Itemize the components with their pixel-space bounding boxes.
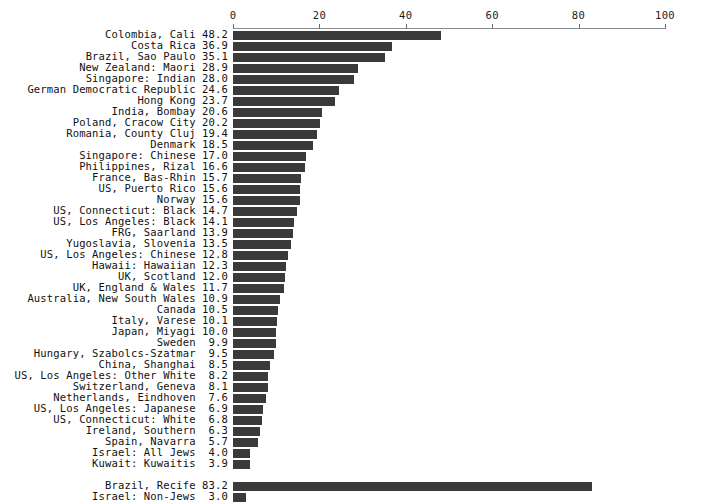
bar <box>233 460 250 469</box>
bar <box>233 284 284 293</box>
chart-row: Israel: Non-Jews 3.0 <box>0 492 712 503</box>
bar <box>233 207 297 216</box>
bar <box>233 306 278 315</box>
x-axis-tick <box>406 24 407 29</box>
bar <box>233 361 270 370</box>
bar <box>233 218 294 227</box>
bar <box>233 108 322 117</box>
x-axis-tick <box>233 24 234 29</box>
bar <box>233 405 263 414</box>
x-axis-tick <box>319 24 320 29</box>
chart-row: Japan, Miyagi 10.0 <box>0 327 712 338</box>
bar <box>233 350 274 359</box>
x-axis: 020406080100 <box>233 0 665 30</box>
bar <box>233 251 288 260</box>
chart-row: Kuwait: Kuwaitis 3.9 <box>0 459 712 470</box>
bar <box>233 427 260 436</box>
bar <box>233 42 392 51</box>
bar <box>233 119 320 128</box>
bar <box>233 64 358 73</box>
bar <box>233 449 250 458</box>
bar <box>233 482 592 491</box>
bar <box>233 185 300 194</box>
bar <box>233 53 385 62</box>
row-label: Kuwait: Kuwaitis 3.9 <box>92 458 228 469</box>
chart-row: German Democratic Republic 24.6 <box>0 85 712 96</box>
chart-row: US, Puerto Rico 15.6 <box>0 184 712 195</box>
x-axis-tick-label: 60 <box>485 10 498 21</box>
x-axis-tick-label: 20 <box>313 10 326 21</box>
x-axis-line <box>233 28 665 29</box>
chart-row: Canada 10.5 <box>0 305 712 316</box>
bar <box>233 152 306 161</box>
bar <box>233 273 285 282</box>
chart-row: Australia, New South Wales 10.9 <box>0 294 712 305</box>
row-label: Israel: Non-Jews 3.0 <box>92 491 228 502</box>
chart-row: Italy, Varese 10.1 <box>0 316 712 327</box>
bar <box>233 97 335 106</box>
bar <box>233 196 300 205</box>
bar <box>233 86 339 95</box>
x-axis-tick-label: 0 <box>230 10 237 21</box>
bar <box>233 372 268 381</box>
bar <box>233 317 277 326</box>
bar <box>233 339 276 348</box>
x-axis-tick-label: 40 <box>399 10 412 21</box>
bar <box>233 383 268 392</box>
bar <box>233 438 258 447</box>
bar <box>233 262 286 271</box>
bar <box>233 416 262 425</box>
bar <box>233 31 441 40</box>
bar <box>233 240 291 249</box>
chart-row: Hong Kong 23.7 <box>0 96 712 107</box>
chart-row: US, Los Angeles: Black 14.1 <box>0 217 712 228</box>
x-axis-tick <box>492 24 493 29</box>
bar <box>233 174 301 183</box>
x-axis-tick <box>579 24 580 29</box>
chart-rows: Colombia, Cali 48.2Costa Rica 36.9Brazil… <box>0 30 712 503</box>
bar <box>233 394 266 403</box>
bar <box>233 295 280 304</box>
bar <box>233 141 313 150</box>
chart-row: Hawaii: Hawaiian 12.3 <box>0 261 712 272</box>
bar <box>233 328 276 337</box>
bar <box>233 130 317 139</box>
bar <box>233 493 246 502</box>
bar <box>233 163 305 172</box>
chart-row: Colombia, Cali 48.2 <box>0 30 712 41</box>
x-axis-tick-label: 80 <box>572 10 585 21</box>
bar <box>233 229 293 238</box>
chart-row: Romania, County Cluj 19.4 <box>0 129 712 140</box>
bar <box>233 75 354 84</box>
x-axis-tick <box>665 24 666 29</box>
x-axis-tick-label: 100 <box>655 10 675 21</box>
